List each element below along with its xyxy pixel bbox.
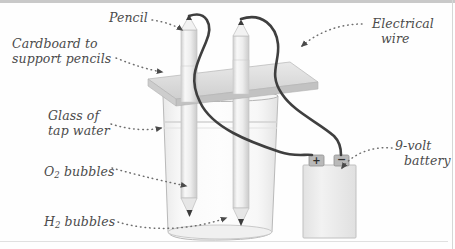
pencil-left: [181, 15, 197, 218]
label-electrical-wire: Electrical wire: [372, 16, 434, 46]
label-wire-line2: wire: [381, 31, 434, 46]
label-glass-of-tap-water: Glass of tap water: [48, 108, 110, 138]
label-h2-element: H: [44, 214, 55, 229]
label-pencil: Pencil: [109, 10, 148, 25]
glass-base: [168, 225, 272, 239]
leader-cardboard: [116, 58, 162, 72]
label-battery-line1: 9-volt: [395, 138, 431, 153]
label-cardboard: Cardboard to support pencils: [12, 36, 111, 66]
label-glass-line1: Glass of: [48, 108, 99, 123]
pencil-right-graphite-top: [238, 20, 244, 26]
label-wire-line1: Electrical: [372, 16, 434, 31]
leader-glass: [111, 124, 161, 130]
battery-9volt: + −: [303, 153, 356, 238]
pencil-right: [233, 20, 249, 227]
figure-canvas: + − Pencil Cardboard to support pencils: [0, 0, 455, 249]
label-battery-line2: battery: [404, 153, 451, 168]
label-o2-element: O: [44, 164, 54, 179]
leader-wire: [302, 24, 362, 46]
leader-pencil: [152, 20, 182, 30]
label-9volt-battery: 9-volt battery: [395, 138, 451, 168]
battery-positive-label: +: [312, 155, 320, 166]
label-cardboard-line2: support pencils: [12, 51, 111, 66]
label-h2-bubbles: H2 bubbles: [44, 214, 115, 233]
label-o2-suffix: bubbles: [60, 164, 115, 179]
label-cardboard-line1: Cardboard to: [12, 36, 98, 51]
label-h2-suffix: bubbles: [61, 214, 116, 229]
glass-of-water: [163, 91, 278, 241]
label-glass-line2: tap water: [48, 123, 110, 138]
label-o2-bubbles: O2 bubbles: [44, 164, 115, 183]
